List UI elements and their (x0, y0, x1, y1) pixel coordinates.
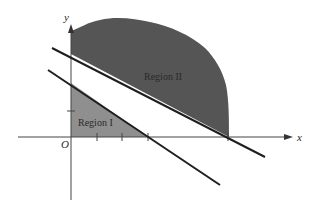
diagram-canvas: y x O Region I Region II (0, 0, 309, 214)
region-i-label: Region I (78, 117, 113, 128)
x-axis-label: x (296, 131, 302, 143)
origin-label: O (61, 138, 69, 150)
region-ii-label: Region II (144, 71, 182, 82)
x-axis-arrow-icon (284, 134, 293, 140)
y-axis-arrow-icon (68, 24, 74, 33)
y-axis-label: y (63, 11, 69, 23)
